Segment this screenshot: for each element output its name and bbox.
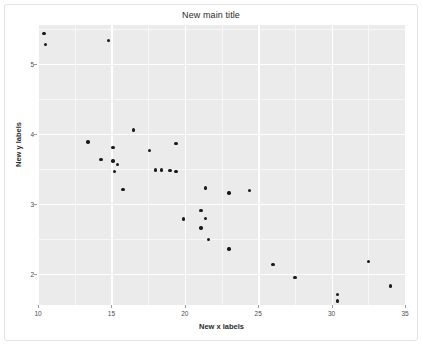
x-tick-label: 30	[328, 310, 335, 317]
data-point	[111, 146, 114, 149]
gridline-minor-horizontal	[38, 99, 405, 100]
y-axis-title: New y labels	[14, 75, 23, 215]
x-tick-mark	[111, 305, 112, 308]
data-point	[336, 293, 339, 296]
x-tick-mark	[185, 305, 186, 308]
x-tick-mark	[332, 305, 333, 308]
data-point	[227, 247, 230, 250]
data-point	[148, 149, 151, 152]
gridline-major-vertical	[185, 25, 186, 305]
x-tick-mark	[405, 305, 406, 308]
data-point	[389, 284, 392, 287]
data-point	[132, 128, 135, 131]
gridline-minor-vertical	[295, 25, 296, 305]
data-point	[207, 238, 210, 241]
gridline-major-horizontal	[38, 134, 405, 135]
x-tick-mark	[38, 305, 39, 308]
plot-panel	[38, 25, 405, 305]
data-point	[271, 263, 274, 266]
data-point	[199, 209, 202, 212]
data-point	[116, 163, 119, 166]
data-point	[160, 168, 163, 171]
data-point	[336, 299, 339, 302]
x-tick-label: 15	[108, 310, 115, 317]
y-tick-label: 2	[30, 270, 34, 277]
data-point	[204, 217, 207, 220]
data-point	[168, 169, 171, 172]
y-tick-label: 5	[30, 60, 34, 67]
data-point	[199, 226, 202, 229]
data-point	[111, 159, 114, 162]
data-point	[174, 170, 177, 173]
y-tick-mark	[34, 204, 37, 205]
gridline-major-vertical	[332, 25, 333, 305]
gridline-major-vertical	[258, 25, 259, 305]
data-point	[44, 43, 47, 46]
data-point	[42, 32, 45, 35]
data-point	[204, 186, 207, 189]
x-tick-mark	[258, 305, 259, 308]
y-tick-mark	[34, 274, 37, 275]
data-point	[113, 170, 116, 173]
gridline-minor-vertical	[75, 25, 76, 305]
gridline-minor-vertical	[148, 25, 149, 305]
y-tick-label: 4	[30, 130, 34, 137]
x-tick-label: 25	[255, 310, 262, 317]
x-tick-label: 20	[181, 310, 188, 317]
chart-container: New main title 101520253035 2345 New x l…	[0, 0, 422, 345]
x-tick-label: 10	[34, 310, 41, 317]
data-point	[154, 168, 157, 171]
data-point	[293, 276, 296, 279]
x-axis-title: New x labels	[38, 322, 405, 331]
data-point	[107, 39, 110, 42]
y-tick-label: 3	[30, 200, 34, 207]
gridline-minor-horizontal	[38, 169, 405, 170]
gridline-major-horizontal	[38, 274, 405, 275]
data-point	[248, 189, 251, 192]
gridline-major-vertical	[111, 25, 112, 305]
gridline-major-horizontal	[38, 64, 405, 65]
data-point	[367, 260, 370, 263]
gridline-minor-horizontal	[38, 239, 405, 240]
data-point	[174, 142, 177, 145]
data-point	[227, 191, 230, 194]
x-tick-label: 35	[401, 310, 408, 317]
y-tick-mark	[34, 64, 37, 65]
gridline-major-vertical	[38, 25, 39, 305]
chart-title: New main title	[0, 10, 422, 20]
gridline-minor-horizontal	[38, 29, 405, 30]
data-point	[121, 188, 124, 191]
data-point	[182, 217, 185, 220]
y-tick-mark	[34, 134, 37, 135]
gridline-minor-vertical	[222, 25, 223, 305]
data-point	[99, 158, 102, 161]
gridline-major-horizontal	[38, 204, 405, 205]
data-point	[86, 140, 89, 143]
